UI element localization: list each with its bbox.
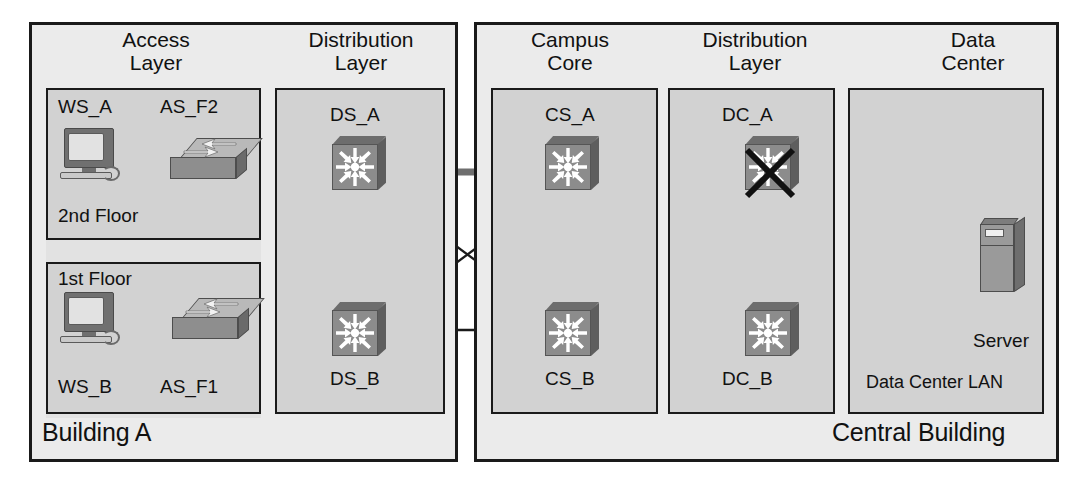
ds-a-label: DS_A [330, 104, 380, 126]
as-f1-label: AS_F1 [160, 376, 218, 398]
as-f1-icon [172, 298, 250, 342]
ws-a-icon [58, 128, 120, 184]
dc-a-icon [745, 136, 799, 190]
ws-b-icon [58, 292, 120, 348]
distribution-left-title: Distribution Layer [281, 28, 441, 74]
dc-a-label: DC_A [722, 104, 773, 126]
as-f2-label: AS_F2 [160, 96, 218, 118]
cs-a-label: CS_A [545, 104, 595, 126]
ds-a-icon [332, 136, 386, 190]
distribution-right-title: Distribution Layer [675, 28, 835, 74]
cs-a-icon [545, 136, 599, 190]
failure-x-icon [743, 140, 799, 200]
as-f2-icon [170, 138, 248, 182]
floor-2-label: 2nd Floor [58, 205, 138, 227]
ds-b-icon [332, 302, 386, 356]
data-center-title: Data Center [903, 28, 1043, 74]
access-layer-title: Access Layer [86, 28, 226, 74]
campus-core-title: Campus Core [497, 28, 643, 74]
dc-b-label: DC_B [722, 368, 773, 390]
building-a-label: Building A [42, 418, 151, 447]
central-building-label: Central Building [832, 418, 1005, 447]
server-icon [980, 218, 1026, 292]
network-topology-diagram: Building A Access Layer WS_A AS_F2 2nd F… [0, 0, 1086, 491]
floor-1-label: 1st Floor [58, 268, 132, 290]
data-center-lan-label: Data Center LAN [866, 372, 1003, 393]
server-label: Server [973, 330, 1029, 352]
cs-b-icon [545, 302, 599, 356]
ws-a-label: WS_A [58, 96, 112, 118]
ds-b-label: DS_B [330, 368, 380, 390]
dc-b-icon [745, 302, 799, 356]
ws-b-label: WS_B [58, 376, 112, 398]
cs-b-label: CS_B [545, 368, 595, 390]
